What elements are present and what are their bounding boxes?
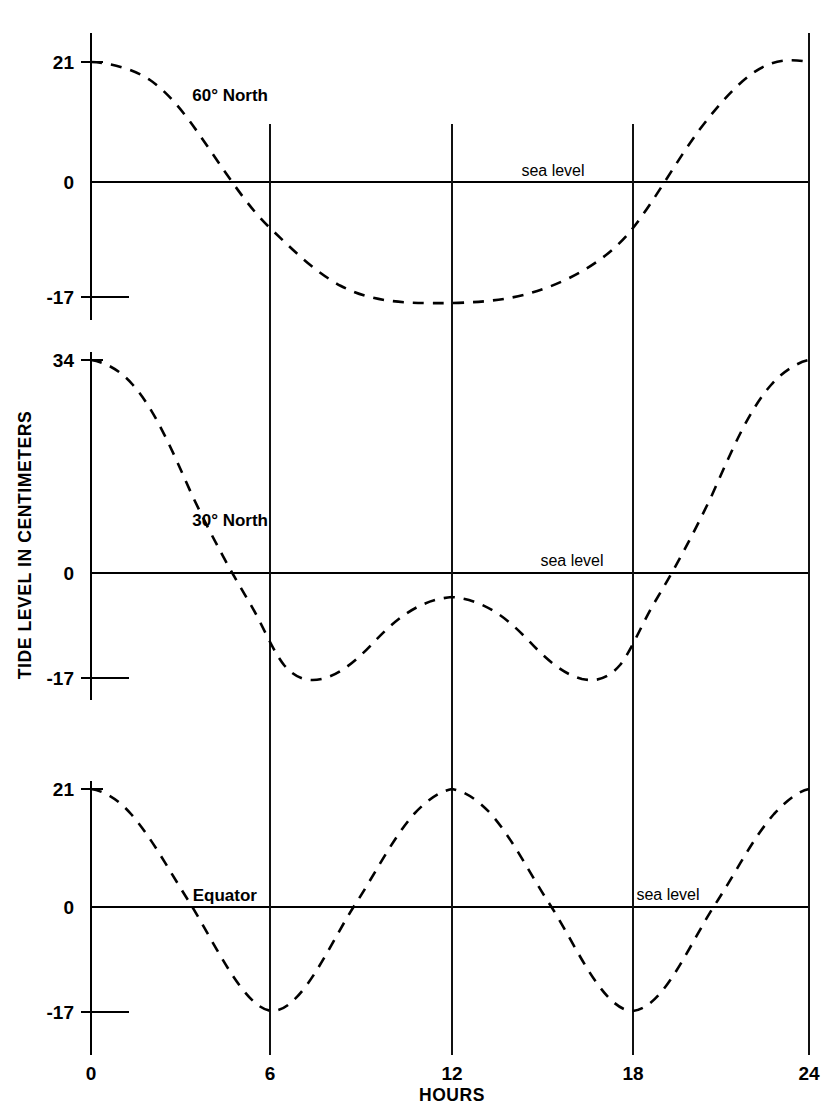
x-axis-label-12: 12 [441, 1063, 462, 1084]
panel-equator-label: Equator [193, 886, 258, 905]
panel-30-north: 34 0 -17 30° North sea level [47, 336, 809, 738]
tide-chart-svg: TIDE LEVEL IN CENTIMETERS 21 0 -17 60° N… [0, 0, 837, 1111]
x-axis-label-0: 0 [86, 1063, 97, 1084]
panel-60-north-ytick-label-0: 0 [63, 172, 74, 193]
panel-30-north-sea-level-label: sea level [540, 552, 603, 569]
panel-equator-ytick-label-neg17: -17 [47, 1002, 74, 1023]
panel-equator-ytick-label-0: 0 [63, 897, 74, 918]
x-axis-title: HOURS [419, 1085, 485, 1105]
x-axis-label-6: 6 [265, 1063, 276, 1084]
x-axis-label-18: 18 [622, 1063, 643, 1084]
x-axis-label-24: 24 [798, 1063, 820, 1084]
y-axis-title: TIDE LEVEL IN CENTIMETERS [15, 411, 35, 679]
x-axis: 0 6 12 18 24 HOURS [86, 1012, 820, 1105]
panel-60-north-ytick-label-21: 21 [53, 52, 75, 73]
tide-chart-figure: TIDE LEVEL IN CENTIMETERS 21 0 -17 60° N… [0, 0, 837, 1111]
panel-equator-ytick-label-21: 21 [53, 779, 75, 800]
panel-30-north-ytick-label-0: 0 [63, 563, 74, 584]
panel-60-north-label: 60° North [192, 86, 268, 105]
panel-30-north-label: 30° North [192, 511, 268, 530]
panel-30-north-ytick-label-neg17: -17 [47, 668, 74, 689]
panel-60-north-sea-level-label: sea level [521, 162, 584, 179]
panel-60-north-ytick-label-neg17: -17 [47, 287, 74, 308]
panel-equator: 21 0 -17 Equator sea level [47, 738, 809, 1055]
panel-equator-sea-level-label: sea level [636, 886, 699, 903]
panel-60-north: 21 0 -17 60° North sea level [47, 33, 809, 336]
panel-30-north-ytick-label-34: 34 [53, 350, 75, 371]
